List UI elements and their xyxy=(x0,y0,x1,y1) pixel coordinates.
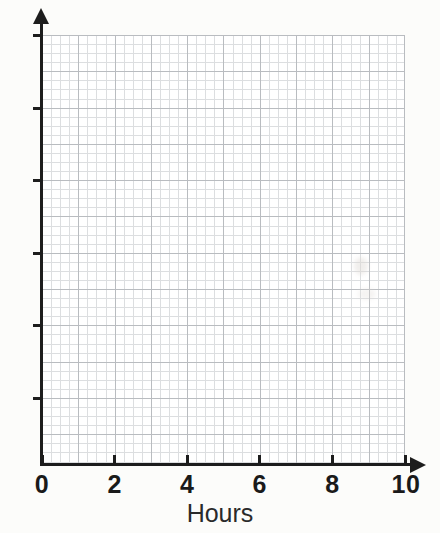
y-axis-arrow-icon xyxy=(33,8,49,24)
x-axis-label-2: 2 xyxy=(93,470,137,498)
scan-artifact-smudge xyxy=(354,257,368,275)
x-axis-line xyxy=(40,463,419,466)
y-axis-tick-0 xyxy=(33,34,43,37)
x-axis-label-6: 6 xyxy=(238,470,282,498)
y-axis-tick-4 xyxy=(33,324,43,327)
x-axis-tick-10 xyxy=(404,455,407,465)
x-axis-label-0: 0 xyxy=(20,470,64,498)
x-axis-tick-2 xyxy=(113,455,116,465)
y-axis-tick-2 xyxy=(33,179,43,182)
y-axis-tick-1 xyxy=(33,107,43,110)
x-axis-title: Hours xyxy=(0,498,440,528)
x-axis-tick-4 xyxy=(186,455,189,465)
plot-grid-area[interactable] xyxy=(42,35,405,464)
y-axis-tick-5 xyxy=(33,397,43,400)
y-axis-tick-3 xyxy=(33,252,43,255)
x-axis-label-8: 8 xyxy=(310,470,354,498)
x-axis-tick-6 xyxy=(258,455,261,465)
x-axis-label-10: 10 xyxy=(384,470,428,498)
x-axis-tick-8 xyxy=(331,455,334,465)
x-axis-label-4: 4 xyxy=(165,470,209,498)
scan-artifact-smudge-lower xyxy=(358,288,376,300)
x-axis-tick-0 xyxy=(41,455,44,465)
graph-page: 0 2 4 6 8 10 Hours xyxy=(0,0,440,533)
